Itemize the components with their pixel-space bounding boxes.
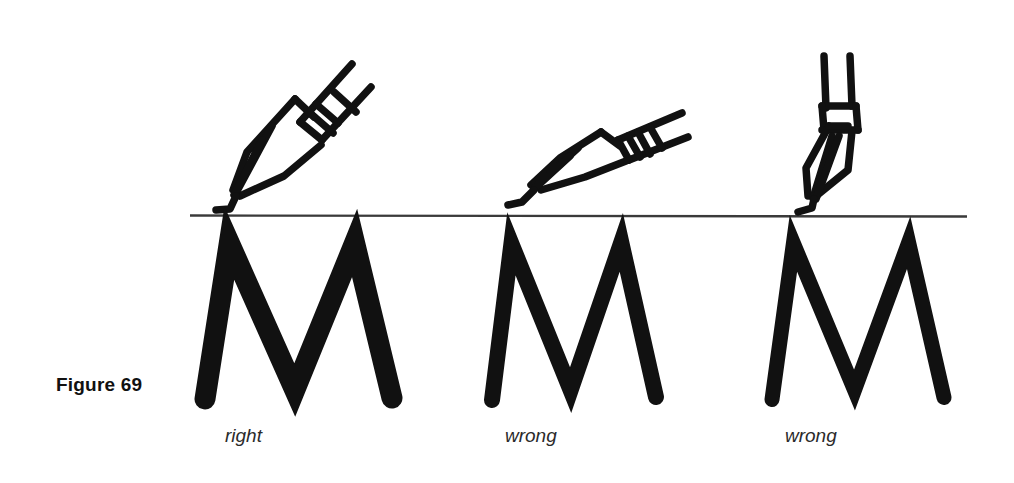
letter-m-wrong-upright (771, 242, 944, 399)
letter-m-right (205, 243, 392, 399)
pen-nib-steep (216, 64, 371, 210)
pen-nib-shallow (508, 113, 688, 205)
column-caption-wrong-shallow: wrong (505, 425, 557, 447)
column-caption-wrong-upright: wrong (785, 425, 837, 447)
letter-m-wrong-shallow (490, 242, 656, 400)
writing-baseline-rule (190, 216, 967, 217)
column-caption-right: right (225, 425, 262, 447)
figure-artwork (0, 0, 1014, 483)
figure-69-illustration: Figure 69 right wrong wrong (0, 0, 1014, 483)
figure-number-label: Figure 69 (56, 374, 142, 396)
pen-nib-upright (798, 56, 858, 212)
